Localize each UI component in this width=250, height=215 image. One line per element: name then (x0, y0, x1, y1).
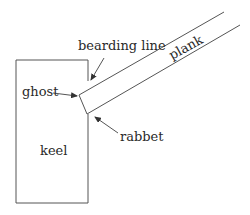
bearding-line-label: bearding line (78, 38, 166, 53)
ghost-label: ghost (22, 84, 59, 99)
rabbet-arrow (95, 117, 118, 133)
plank-shape (79, 12, 240, 114)
bearding-line-arrow (91, 58, 104, 80)
rabbet-label: rabbet (120, 129, 164, 144)
keel-label: keel (40, 143, 67, 158)
keel-shape (16, 60, 88, 203)
plank-label: plank (166, 32, 205, 63)
keel-plank-diagram: bearding line ghost rabbet keel plank (0, 0, 250, 215)
